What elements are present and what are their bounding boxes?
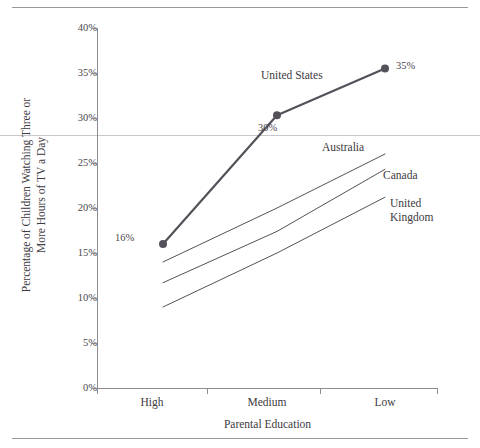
data-label-low: 35%: [396, 60, 415, 71]
series-label-australia: Australia: [322, 140, 364, 154]
data-label-high: 16%: [115, 232, 134, 243]
series-label-united-kingdom: United Kingdom: [390, 196, 433, 224]
series-line: [163, 197, 385, 307]
data-point-marker: [273, 111, 281, 119]
data-point-marker: [159, 240, 167, 248]
data-point-marker: [381, 65, 389, 73]
series-canada: [163, 169, 385, 282]
series-line: [163, 69, 385, 245]
series-line: [163, 169, 385, 282]
series-label-canada: Canada: [383, 168, 417, 182]
chart-figure: 40% 35% 30% 25% 20% 15% 10% 5% 0% High M…: [0, 0, 480, 448]
data-label-medium: 30%: [258, 122, 277, 133]
series-united-states: [159, 65, 389, 249]
series-united-kingdom: [163, 197, 385, 307]
series-label-united-states: United States: [261, 68, 323, 82]
